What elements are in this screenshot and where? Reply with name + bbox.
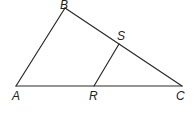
segment-bc	[65, 8, 182, 86]
label-s: S	[117, 29, 125, 43]
triangle-diagram: B S A R C	[0, 0, 196, 114]
label-b: B	[60, 0, 68, 12]
label-c: C	[176, 89, 185, 103]
label-r: R	[89, 89, 98, 103]
label-a: A	[11, 89, 20, 103]
segment-ab	[16, 8, 65, 86]
segment-rs	[94, 44, 119, 86]
